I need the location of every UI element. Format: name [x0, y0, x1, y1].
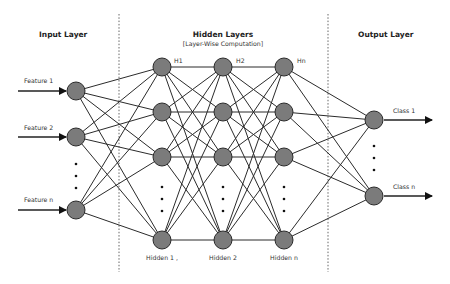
class-1-label: Class 1: [393, 107, 415, 114]
h1-label: H1: [174, 57, 183, 64]
connection-line: [284, 112, 374, 196]
hn-node-1: [275, 58, 293, 76]
input-ellipsis-dot: [75, 163, 78, 166]
output-node-1: [365, 111, 383, 129]
input-node-1: [67, 82, 85, 100]
input-node-2: [67, 128, 85, 146]
h1-node-3: [153, 148, 171, 166]
input-layer-title: Input Layer: [39, 30, 88, 39]
class-n-label: Class n: [393, 183, 415, 190]
h1-ellipsis-dot: [161, 186, 164, 189]
h2-label: H2: [236, 57, 245, 64]
output-node-2: [365, 187, 383, 205]
h1-node-4: [153, 231, 171, 249]
h2-node-3: [214, 148, 232, 166]
hidden-2-label: Hidden 2: [209, 254, 237, 261]
hidden-1-label: Hidden 1 ,: [146, 254, 178, 261]
h1-node-2: [153, 103, 171, 121]
feature-1-label: Feature 1: [24, 77, 53, 84]
hn-ellipsis-dot: [283, 186, 286, 189]
hidden-layers-title: Hidden Layers: [193, 30, 254, 39]
hn-label: Hn: [297, 57, 306, 64]
connection-line: [284, 196, 374, 240]
h1-node-1: [153, 58, 171, 76]
neural-network-diagram: Input Layer Hidden Layers [Layer-Wise Co…: [0, 0, 450, 284]
hn-node-4: [275, 231, 293, 249]
hn-ellipsis-dot: [283, 210, 286, 213]
h2-node-1: [214, 58, 232, 76]
output-ellipsis-dot: [373, 157, 376, 160]
h2-ellipsis-dot: [222, 210, 225, 213]
input-arrows: [18, 91, 66, 210]
h2-node-4: [214, 231, 232, 249]
connection-line: [284, 67, 374, 120]
hidden-n-label: Hidden n: [270, 254, 298, 261]
output-ellipsis-dot: [373, 169, 376, 172]
input-ellipsis-dot: [75, 175, 78, 178]
hn-ellipsis-dot: [283, 198, 286, 201]
h2-ellipsis-dot: [222, 186, 225, 189]
hn-node-3: [275, 148, 293, 166]
h1-ellipsis-dot: [161, 210, 164, 213]
input-node-3: [67, 201, 85, 219]
input-ellipsis-dot: [75, 187, 78, 190]
h2-node-2: [214, 103, 232, 121]
nodes: [67, 58, 383, 249]
feature-2-label: Feature 2: [24, 124, 53, 131]
feature-n-label: Feature n: [24, 196, 53, 203]
output-ellipsis-dot: [373, 145, 376, 148]
h1-ellipsis-dot: [161, 198, 164, 201]
h2-ellipsis-dot: [222, 198, 225, 201]
output-layer-title: Output Layer: [358, 30, 414, 39]
hidden-layers-subtitle: [Layer-Wise Computation]: [183, 40, 263, 48]
hn-node-2: [275, 103, 293, 121]
connection-line: [284, 112, 374, 120]
